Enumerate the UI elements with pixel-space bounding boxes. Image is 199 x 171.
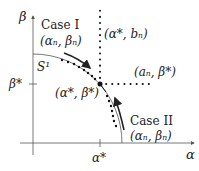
case2-title: Case II xyxy=(130,114,173,128)
case1-title: Case I xyxy=(41,18,79,32)
alpha-star-label: α* xyxy=(92,151,106,165)
beta-axis-label: β xyxy=(18,9,27,24)
case1-sequence-dots xyxy=(61,59,96,80)
case2-sequence-label: (αₙ, βₙ) xyxy=(130,129,172,143)
case1-sequence-label: (αₙ, βₙ) xyxy=(40,34,82,48)
diagonal-line xyxy=(100,84,106,92)
alpha-axis-label: α xyxy=(186,147,195,162)
diagram-canvas: β α β* α* Case I (αₙ, βₙ) S¹ (α*, bₙ) (a… xyxy=(0,0,199,171)
top-point-label: (α*, bₙ) xyxy=(104,27,148,41)
beta-star-label: β* xyxy=(8,77,22,91)
s1-label: S¹ xyxy=(37,60,50,74)
intersection-label: (α*, β*) xyxy=(55,86,99,100)
right-point-label: (aₙ, β*) xyxy=(134,65,176,79)
